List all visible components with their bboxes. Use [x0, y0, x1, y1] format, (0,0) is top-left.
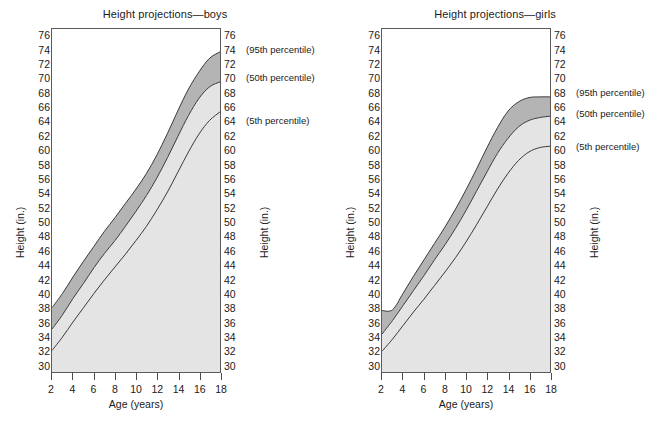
- y-tick-label-right-girls-36: 36: [554, 318, 566, 329]
- y-tick-label-left-girls-44: 44: [368, 260, 380, 271]
- y-tick-label-right-boys-32: 32: [224, 346, 236, 357]
- x-tick-boys-8: [115, 373, 116, 380]
- y-tick-label-left-boys-76: 76: [38, 30, 50, 41]
- y-tick-label-left-girls-60: 60: [368, 145, 380, 156]
- annotation-boys-5th-percentile: (5th percentile): [246, 116, 309, 126]
- x-tick-label-girls-8: 8: [435, 383, 455, 395]
- x-tick-label-girls-6: 6: [414, 383, 434, 395]
- y-tick-label-left-girls-54: 54: [368, 188, 380, 199]
- chart-title-girls: Height projections—girls: [330, 8, 660, 20]
- y-tick-label-right-boys-74: 74: [224, 45, 236, 56]
- x-axis-labels-boys: 24681012141618: [36, 383, 236, 397]
- y-tick-label-left-girls-62: 62: [368, 131, 380, 142]
- y-tick-label-left-boys-52: 52: [38, 203, 50, 214]
- y-tick-label-left-boys-48: 48: [38, 231, 50, 242]
- x-tick-girls-10: [466, 373, 467, 380]
- x-tick-girls-14: [509, 373, 510, 380]
- y-tick-label-left-boys-64: 64: [38, 116, 50, 127]
- plot-svg-girls: [382, 29, 550, 372]
- y-tick-label-left-boys-50: 50: [38, 217, 50, 228]
- x-tick-label-boys-2: 2: [41, 383, 61, 395]
- y-tick-label-right-girls-38: 38: [554, 303, 566, 314]
- y-tick-label-right-boys-54: 54: [224, 188, 236, 199]
- plot-svg-boys: [52, 29, 220, 372]
- y-tick-label-right-girls-44: 44: [554, 260, 566, 271]
- figure-root: Height projections—boys 7674727068666462…: [0, 0, 660, 426]
- y-tick-label-right-boys-34: 34: [224, 332, 236, 343]
- y-tick-label-right-boys-56: 56: [224, 174, 236, 185]
- x-tick-label-boys-18: 18: [211, 383, 231, 395]
- y-tick-label-left-girls-42: 42: [368, 275, 380, 286]
- y-tick-label-left-boys-36: 36: [38, 318, 50, 329]
- x-tick-label-girls-2: 2: [371, 383, 391, 395]
- y-tick-label-left-boys-62: 62: [38, 131, 50, 142]
- y-tick-label-right-girls-76: 76: [554, 30, 566, 41]
- y-tick-label-left-boys-30: 30: [38, 361, 50, 372]
- x-axis-title-boys: Age (years): [51, 398, 221, 410]
- y-tick-label-right-girls-56: 56: [554, 174, 566, 185]
- y-tick-label-left-boys-38: 38: [38, 303, 50, 314]
- y-axis-title-left-girls: Height (in.): [344, 207, 356, 258]
- chart-panel-girls: Height projections—girls 767472706866646…: [330, 0, 660, 426]
- y-tick-label-right-girls-30: 30: [554, 361, 566, 372]
- y-tick-label-left-girls-36: 36: [368, 318, 380, 329]
- y-tick-label-right-girls-62: 62: [554, 131, 566, 142]
- y-tick-label-right-boys-58: 58: [224, 160, 236, 171]
- y-tick-label-left-girls-66: 66: [368, 102, 380, 113]
- y-tick-label-left-girls-46: 46: [368, 246, 380, 257]
- y-tick-label-right-boys-30: 30: [224, 361, 236, 372]
- y-tick-label-left-boys-74: 74: [38, 45, 50, 56]
- x-tick-label-boys-16: 16: [190, 383, 210, 395]
- annotation-girls-50th-percentile: (50th percentile): [576, 109, 645, 119]
- y-tick-label-right-boys-36: 36: [224, 318, 236, 329]
- y-tick-label-left-girls-74: 74: [368, 45, 380, 56]
- y-tick-label-left-boys-60: 60: [38, 145, 50, 156]
- y-axis-title-left-boys: Height (in.): [14, 207, 26, 258]
- annotation-girls-95th-percentile: (95th percentile): [576, 88, 645, 98]
- y-tick-label-left-girls-52: 52: [368, 203, 380, 214]
- x-tick-boys-18: [221, 373, 222, 380]
- x-tick-label-boys-14: 14: [169, 383, 189, 395]
- y-tick-label-right-boys-50: 50: [224, 217, 236, 228]
- x-tick-boys-2: [51, 373, 52, 380]
- x-tick-label-boys-4: 4: [62, 383, 82, 395]
- chart-title-boys: Height projections—boys: [0, 8, 330, 20]
- y-tick-label-left-girls-34: 34: [368, 332, 380, 343]
- y-tick-label-left-girls-50: 50: [368, 217, 380, 228]
- y-tick-label-right-boys-48: 48: [224, 231, 236, 242]
- y-tick-label-left-girls-64: 64: [368, 116, 380, 127]
- x-tick-girls-4: [402, 373, 403, 380]
- y-tick-label-right-girls-52: 52: [554, 203, 566, 214]
- y-tick-label-left-boys-32: 32: [38, 346, 50, 357]
- y-tick-label-left-boys-56: 56: [38, 174, 50, 185]
- y-tick-label-right-girls-40: 40: [554, 289, 566, 300]
- y-tick-label-left-girls-76: 76: [368, 30, 380, 41]
- y-tick-label-left-girls-72: 72: [368, 59, 380, 70]
- x-tick-label-boys-6: 6: [84, 383, 104, 395]
- y-tick-label-right-boys-60: 60: [224, 145, 236, 156]
- annotation-girls-5th-percentile: (5th percentile): [576, 142, 639, 152]
- y-tick-label-right-girls-70: 70: [554, 73, 566, 84]
- y-axis-title-right-girls: Height (in.): [588, 207, 600, 258]
- y-tick-label-right-boys-76: 76: [224, 30, 236, 41]
- y-tick-label-left-boys-34: 34: [38, 332, 50, 343]
- y-tick-label-right-boys-68: 68: [224, 88, 236, 99]
- x-tick-boys-4: [72, 373, 73, 380]
- y-tick-label-left-girls-70: 70: [368, 73, 380, 84]
- x-tick-girls-16: [530, 373, 531, 380]
- x-axis-ticks-boys: [51, 373, 221, 382]
- y-tick-label-left-girls-68: 68: [368, 88, 380, 99]
- y-tick-label-left-boys-58: 58: [38, 160, 50, 171]
- y-tick-label-right-girls-46: 46: [554, 246, 566, 257]
- y-tick-label-right-boys-52: 52: [224, 203, 236, 214]
- plot-area-boys: [51, 28, 221, 373]
- y-tick-label-right-girls-66: 66: [554, 102, 566, 113]
- plot-area-girls: [381, 28, 551, 373]
- x-tick-label-boys-12: 12: [147, 383, 167, 395]
- x-tick-label-girls-14: 14: [499, 383, 519, 395]
- x-tick-label-boys-10: 10: [126, 383, 146, 395]
- y-tick-label-left-boys-46: 46: [38, 246, 50, 257]
- y-tick-label-right-girls-34: 34: [554, 332, 566, 343]
- x-tick-boys-12: [157, 373, 158, 380]
- y-tick-label-right-girls-54: 54: [554, 188, 566, 199]
